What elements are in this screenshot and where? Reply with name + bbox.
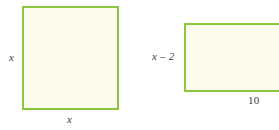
square-bottom-side-label: x: [67, 114, 72, 125]
geometry-diagram: x x x – 2 10: [0, 0, 279, 130]
rectangle-left-side-label: x – 2: [152, 51, 174, 62]
square-left-side-label: x: [9, 52, 14, 63]
rectangle-shape: [184, 23, 279, 92]
rectangle-bottom-side-label: 10: [248, 95, 259, 106]
square-shape: [22, 6, 119, 110]
